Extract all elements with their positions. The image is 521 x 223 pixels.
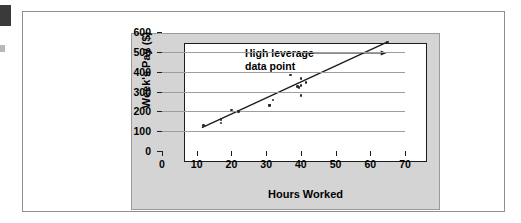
x-axis-tick <box>405 151 406 156</box>
y-axis-tick <box>157 111 162 112</box>
figure-container: Hours Worked Week's Pay ($) High leverag… <box>22 11 505 212</box>
annotation-high-leverage: High leverage data point <box>245 47 314 73</box>
data-point <box>237 110 240 113</box>
page-edge-marker-small <box>0 45 5 52</box>
x-axis-title: Hours Worked <box>184 188 427 200</box>
data-point <box>202 124 205 127</box>
x-axis-tick <box>231 151 232 156</box>
data-point <box>268 104 271 107</box>
x-axis-tick-label: 30 <box>254 159 278 170</box>
x-axis-tick-label: 50 <box>324 159 348 170</box>
y-axis-tick <box>157 32 162 33</box>
y-axis-tick-label: 200 <box>119 106 151 117</box>
x-axis-tick-label: 60 <box>358 159 382 170</box>
gridline <box>162 72 405 73</box>
gridline <box>162 131 405 132</box>
x-axis-tick <box>301 151 302 156</box>
data-point <box>300 77 303 80</box>
x-axis-tick-label: 40 <box>289 159 313 170</box>
y-axis-tick-label: 300 <box>119 87 151 98</box>
x-axis-tick-label: 0 <box>150 159 174 170</box>
y-axis-tick <box>157 92 162 93</box>
data-point <box>300 84 303 87</box>
y-axis-tick <box>157 72 162 73</box>
page-edge-marker <box>0 5 11 26</box>
x-axis-tick <box>162 151 163 156</box>
x-axis-tick-label: 20 <box>219 159 243 170</box>
gridline <box>162 92 405 93</box>
x-axis-tick-label: 10 <box>185 159 209 170</box>
data-point <box>300 94 303 97</box>
x-axis-tick <box>197 151 198 156</box>
gridline <box>162 111 405 112</box>
y-axis-tick-label: 600 <box>119 27 151 38</box>
x-axis-tick <box>370 151 371 156</box>
y-axis-tick-label: 100 <box>119 126 151 137</box>
annotation-line-1: High leverage <box>245 47 314 60</box>
y-axis-tick-label: 0 <box>119 146 151 157</box>
y-axis-tick-label: 400 <box>119 67 151 78</box>
y-axis-tick-label: 500 <box>119 47 151 58</box>
y-axis-tick <box>157 52 162 53</box>
data-point <box>230 109 233 112</box>
x-axis-tick <box>336 151 337 156</box>
data-point <box>220 118 223 121</box>
gridline <box>162 52 405 53</box>
y-axis-tick <box>157 131 162 132</box>
data-point <box>386 41 389 44</box>
x-axis-tick <box>266 151 267 156</box>
x-axis-tick-label: 70 <box>393 159 417 170</box>
